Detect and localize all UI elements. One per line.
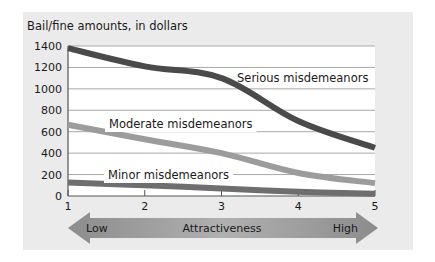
arrow-high-label: High [333, 222, 358, 235]
y-tick-label: 0 [55, 190, 62, 203]
line-chart: 0200400600800100012001400 12345 Serious … [0, 0, 435, 262]
series-label: Minor misdemeanors [108, 168, 229, 182]
y-tick-label: 1400 [34, 40, 62, 53]
y-tick-label: 600 [41, 126, 62, 139]
x-tick-label: 2 [141, 200, 148, 213]
x-tick-label: 4 [295, 200, 302, 213]
y-tick-label: 400 [41, 147, 62, 160]
x-tick-label: 5 [372, 200, 379, 213]
x-tick-label: 3 [218, 200, 225, 213]
series-label: Moderate misdemeanors [109, 117, 252, 131]
x-axis-title: Attractiveness [182, 222, 261, 235]
y-axis-title: Bail/fine amounts, in dollars [27, 19, 188, 33]
y-tick-label: 1200 [34, 61, 62, 74]
chart: 0200400600800100012001400 12345 Serious … [0, 0, 435, 262]
y-tick-label: 200 [41, 169, 62, 182]
y-tick-label: 800 [41, 104, 62, 117]
series-label: Serious misdemeanors [237, 71, 368, 85]
arrow-low-label: Low [86, 222, 108, 235]
x-tick-label: 1 [65, 200, 72, 213]
y-tick-label: 1000 [34, 83, 62, 96]
